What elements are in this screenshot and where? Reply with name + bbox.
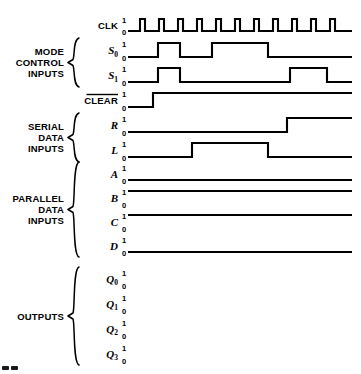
group-label-parallel-data-inputs: DATA [38,204,64,215]
signal-label-q2: Q2 [106,323,118,338]
level-high-q0: 1 [122,269,126,278]
group-label-serial-data-inputs: DATA [38,132,64,143]
group-label-mode-control-inputs: MODE [35,46,64,57]
waveform-clk [128,19,352,31]
signal-label-r: R [110,119,118,131]
group-label-parallel-data-inputs: PARALLEL [12,193,64,204]
group-label-outputs: OUTPUTS [17,311,64,322]
level-low-q1: 0 [122,307,126,316]
group-label-serial-data-inputs: SERIAL [28,121,64,132]
signal-label-q1: Q1 [106,298,118,313]
signal-label-s0: S0 [108,44,118,59]
timing-diagram-canvas: CLK10S010S110CLEAR10R10L10A10B10C10D10Q0… [0,0,361,374]
signal-label-s1: S1 [108,69,118,84]
group-label-serial-data-inputs: INPUTS [28,143,64,154]
level-low-a: 0 [122,177,126,186]
level-high-d: 1 [122,236,126,245]
scan-artifact-mark [11,366,18,370]
brace-parallel-data-inputs [68,162,79,257]
level-low-q0: 0 [122,282,126,291]
scan-artifact-mark [2,366,9,370]
level-low-c: 0 [122,225,126,234]
signal-label-a: A [110,168,118,180]
level-high-q2: 1 [122,319,126,328]
level-low-q2: 0 [122,332,126,341]
level-low-d: 0 [122,249,126,258]
brace-mode-control-inputs [68,38,79,87]
brace-serial-data-inputs [68,113,79,162]
waveform-s1 [128,68,352,82]
waveform-clear [128,93,352,107]
group-label-mode-control-inputs: INPUTS [28,68,64,79]
level-low-r: 0 [122,129,126,138]
waveform-r [128,118,352,132]
level-high-q1: 1 [122,294,126,303]
level-high-a: 1 [122,164,126,173]
brace-outputs [68,267,79,365]
group-label-parallel-data-inputs: INPUTS [28,215,64,226]
signal-label-c: C [111,216,119,228]
signal-label-q0: Q0 [106,273,118,288]
level-low-clear: 0 [122,104,126,113]
signal-label-b: B [110,192,118,204]
level-high-b: 1 [122,188,126,197]
level-low-b: 0 [122,201,126,210]
level-high-s1: 1 [122,65,126,74]
signal-label-q3: Q3 [106,348,118,363]
level-low-s0: 0 [122,54,126,63]
signal-label-clk: CLK [98,20,118,31]
level-high-q3: 1 [122,344,126,353]
level-low-l: 0 [122,154,126,163]
level-high-clk: 1 [122,16,126,25]
level-low-s1: 0 [122,79,126,88]
signal-label-clear: CLEAR [84,95,118,106]
waveform-l [128,143,352,157]
level-high-l: 1 [122,140,126,149]
level-high-s0: 1 [122,40,126,49]
signal-label-d: D [109,240,118,252]
group-label-mode-control-inputs: CONTROL [16,57,64,68]
signal-label-l: L [110,144,118,156]
timing-diagram-figure: CLK10S010S110CLEAR10R10L10A10B10C10D10Q0… [0,0,361,374]
waveform-s0 [128,43,352,57]
level-low-clk: 0 [122,28,126,37]
level-low-q3: 0 [122,357,126,366]
level-high-c: 1 [122,212,126,221]
level-high-clear: 1 [122,90,126,99]
level-high-r: 1 [122,115,126,124]
